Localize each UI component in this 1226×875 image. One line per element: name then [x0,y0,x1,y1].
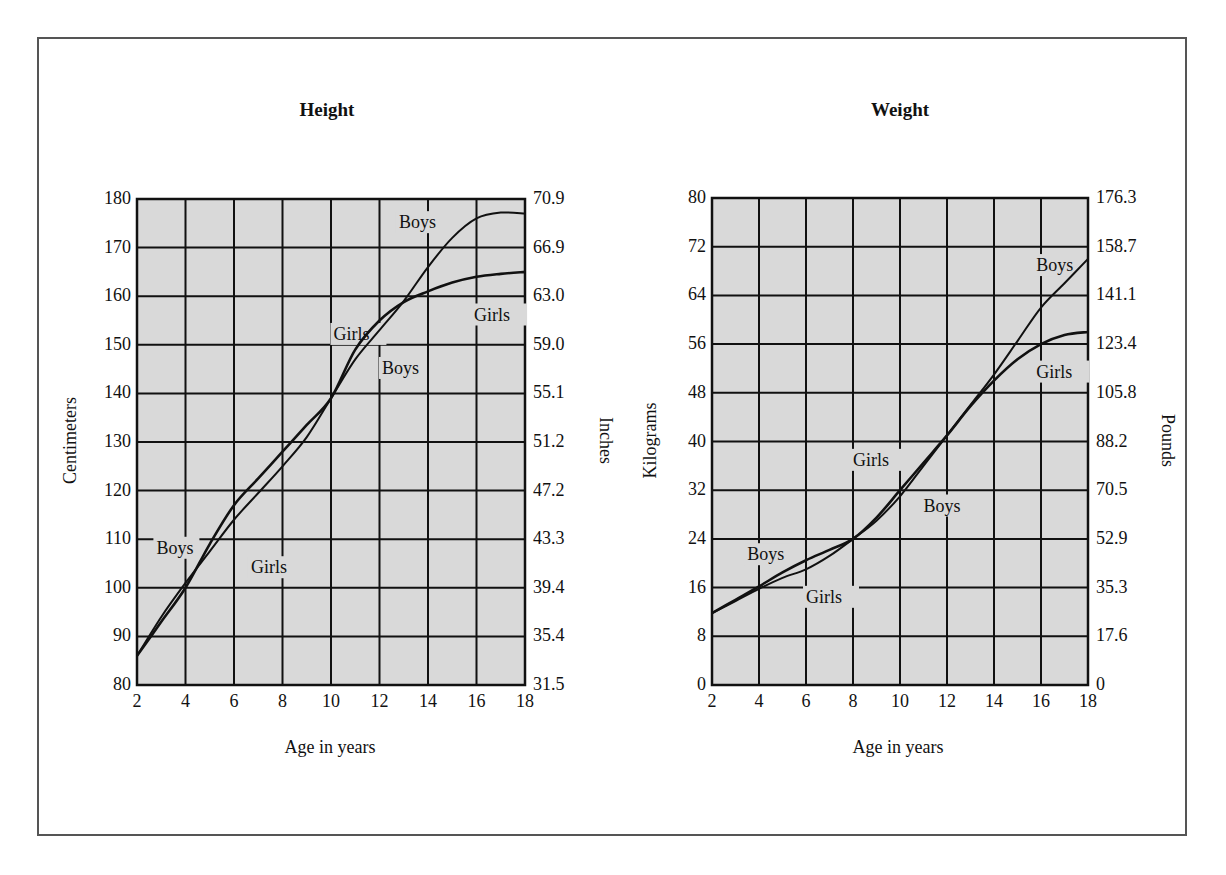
y-tick-label-right: 43.3 [533,529,603,547]
y-tick-label-right: 0 [1096,675,1166,693]
y-tick-label-right: 141.1 [1096,285,1166,303]
series-annotation-boys: Boys [747,544,784,564]
x-tick-label: 10 [880,692,920,710]
y-tick-label-right: 123.4 [1096,334,1166,352]
y-tick-label-left: 16 [646,578,706,596]
weight-ylabel-left: Kilograms [640,396,661,486]
x-tick-label: 14 [408,692,448,710]
weight-ylabel-right: Pounds [1157,401,1178,481]
x-tick-label: 18 [1068,692,1108,710]
y-tick-label-right: 158.7 [1096,237,1166,255]
y-tick-label-left: 180 [71,189,131,207]
series-annotation-girls: Girls [806,587,842,607]
y-tick-label-left: 64 [646,285,706,303]
x-tick-label: 8 [833,692,873,710]
x-tick-label: 14 [974,692,1014,710]
y-tick-label-left: 170 [71,238,131,256]
x-tick-label: 8 [263,692,303,710]
y-tick-label-right: 70.5 [1096,480,1166,498]
height-chart-title: Height [227,99,427,121]
y-tick-label-left: 72 [646,237,706,255]
series-annotation-boys: Boys [382,358,419,378]
x-tick-label: 2 [692,692,732,710]
y-tick-label-left: 56 [646,334,706,352]
y-tick-label-left: 80 [646,188,706,206]
y-tick-label-right: 66.9 [533,238,603,256]
y-tick-label-right: 39.4 [533,578,603,596]
y-tick-label-left: 8 [646,626,706,644]
y-tick-label-left: 110 [71,529,131,547]
weight-chart-title: Weight [800,99,1000,121]
x-tick-label: 12 [360,692,400,710]
x-tick-label: 4 [166,692,206,710]
y-tick-label-left: 100 [71,578,131,596]
series-annotation-boys: Boys [924,496,961,516]
y-tick-label-left: 90 [71,626,131,644]
height-ylabel-right: Inches [595,406,616,476]
x-tick-label: 18 [505,692,545,710]
series-annotation-girls: Girls [853,450,889,470]
y-tick-label-right: 88.2 [1096,432,1166,450]
series-annotation-girls: Girls [333,324,369,344]
x-tick-label: 10 [311,692,351,710]
y-tick-label-right: 47.2 [533,481,603,499]
x-tick-label: 2 [117,692,157,710]
y-tick-label-left: 150 [71,335,131,353]
x-tick-label: 12 [927,692,967,710]
x-tick-label: 16 [457,692,497,710]
y-tick-label-right: 59.0 [533,335,603,353]
y-tick-label-right: 35.3 [1096,578,1166,596]
y-tick-label-right: 52.9 [1096,529,1166,547]
weight-xlabel: Age in years [823,737,973,758]
series-annotation-boys: Boys [1036,255,1073,275]
x-tick-label: 6 [786,692,826,710]
x-tick-label: 4 [739,692,779,710]
y-tick-label-right: 31.5 [533,675,603,693]
height-plot-area: BoysGirlsGirlsBoysBoysGirls [137,199,525,685]
y-tick-label-left: 24 [646,529,706,547]
y-tick-label-right: 176.3 [1096,188,1166,206]
y-tick-label-right: 17.6 [1096,626,1166,644]
height-ylabel-left: Centimeters [60,396,81,486]
series-annotation-boys: Boys [399,212,436,232]
y-tick-label-left: 160 [71,286,131,304]
y-tick-label-left: 80 [71,675,131,693]
x-tick-label: 16 [1021,692,1061,710]
series-annotation-boys: Boys [156,538,193,558]
y-tick-label-right: 51.2 [533,432,603,450]
x-tick-label: 6 [214,692,254,710]
weight-plot-area: BoysGirlsGirlsBoysBoysGirls [712,198,1088,685]
series-annotation-girls: Girls [251,557,287,577]
height-xlabel: Age in years [255,737,405,758]
series-annotation-girls: Girls [1036,362,1072,382]
y-tick-label-right: 35.4 [533,626,603,644]
series-annotation-girls: Girls [474,305,510,325]
y-tick-label-right: 105.8 [1096,383,1166,401]
y-tick-label-right: 55.1 [533,383,603,401]
y-tick-label-right: 63.0 [533,286,603,304]
y-tick-label-right: 70.9 [533,189,603,207]
y-tick-label-left: 0 [646,675,706,693]
